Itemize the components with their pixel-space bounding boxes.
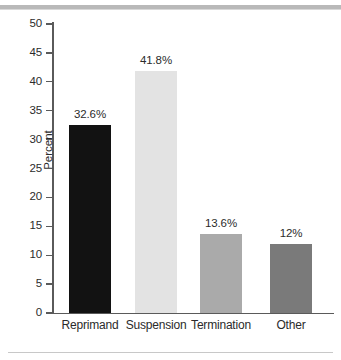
chart-figure: Percent 05101520253035404550 32.6%41.8%1… — [0, 0, 341, 360]
y-axis-tick-label: 25 — [2, 163, 42, 175]
y-axis-tick-label: 0 — [2, 307, 42, 319]
y-axis-tick-label: 50 — [2, 18, 42, 30]
plot-area: 32.6%41.8%13.6%12% — [52, 24, 334, 313]
bar-value-label: 13.6% — [186, 218, 256, 230]
bar-value-label: 41.8% — [121, 55, 191, 67]
top-rule-shadow — [0, 9, 341, 10]
y-axis-tick-label: 15 — [2, 220, 42, 232]
bottom-rule — [8, 352, 333, 353]
y-axis-tick-label: 35 — [2, 105, 42, 117]
bar-termination — [200, 234, 242, 313]
y-axis-tick-label: 20 — [2, 191, 42, 203]
x-axis-label-other: Other — [246, 318, 336, 332]
bar-value-label: 12% — [256, 228, 326, 240]
y-axis-tick-label: 45 — [2, 47, 42, 59]
bar-value-label: 32.6% — [55, 109, 125, 121]
y-axis-tick-label: 5 — [2, 278, 42, 290]
bar-reprimand — [69, 125, 111, 313]
y-axis-tick-label: 40 — [2, 76, 42, 88]
y-axis-tick-label: 30 — [2, 134, 42, 146]
bar-other — [270, 244, 312, 313]
bar-suspension — [135, 71, 177, 313]
y-axis-tick-label: 10 — [2, 249, 42, 261]
